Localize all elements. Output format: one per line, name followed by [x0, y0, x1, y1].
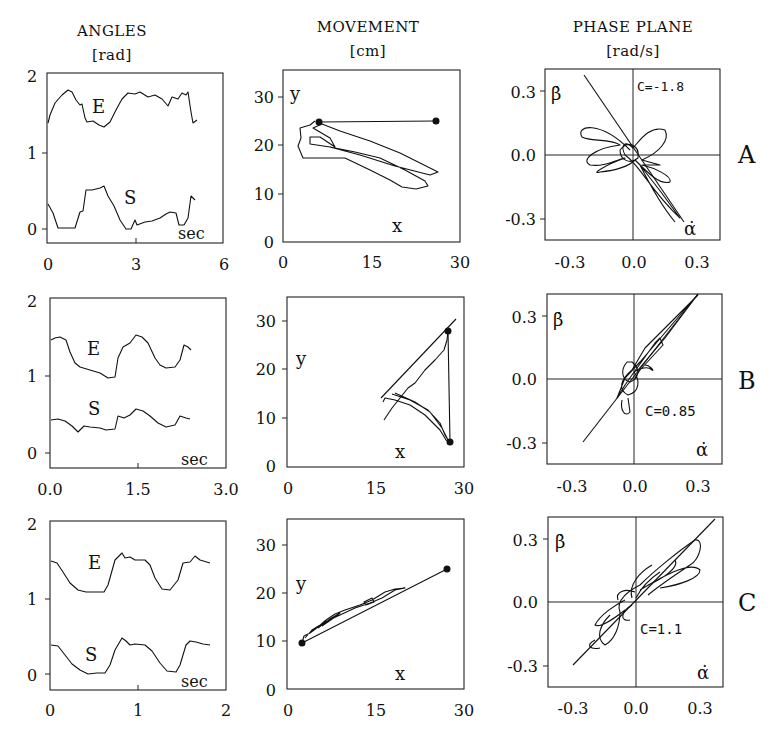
s-label: S	[124, 187, 136, 208]
movement-unit: [cm]	[350, 42, 386, 60]
ytick: 20	[256, 584, 276, 603]
xtick: -0.3	[558, 699, 589, 718]
x-unit: sec	[178, 224, 205, 243]
xtick: 0.0	[623, 699, 648, 718]
figure: ANGLES [rad] MOVEMENT [cm] PHASE PLANE […	[0, 0, 777, 736]
row-a: 2 1 0 0 3 6 E S sec 30 20 10 0 0 15 30	[27, 67, 756, 274]
xtick: 0.3	[687, 699, 712, 718]
e-trace	[48, 90, 197, 127]
ytick: 0.3	[512, 308, 537, 327]
beta-dot-label: β̇	[553, 309, 563, 330]
movement-panel-a: 30 20 10 0 0 15 30 y x	[254, 70, 471, 272]
ytick: 2	[27, 515, 37, 534]
row-label-b: B	[738, 367, 756, 395]
ytick: 20	[254, 136, 274, 155]
ytick: 1	[27, 144, 37, 163]
ytick: 0.0	[512, 370, 537, 389]
phase-panel-c: 0.3 0.0 -0.3 -0.3 0.0 0.3 β̇ C=1.1 α̇	[507, 517, 723, 718]
ytick: 1	[27, 367, 37, 386]
x-unit: sec	[181, 672, 208, 691]
ytick: 10	[256, 409, 276, 428]
xtick: 0	[283, 701, 293, 720]
e-trace	[51, 553, 210, 592]
row-c: 2 1 0 0 1 2 E S sec 30 20 10 0 0 15 30	[27, 515, 756, 720]
ytick: 0	[266, 457, 276, 476]
ytick: 30	[256, 312, 276, 331]
angles-panel-c: 2 1 0 0 1 2 E S sec	[27, 515, 231, 720]
row-b: 2 1 0 0.0 1.5 3.0 E S sec 30 20 10 0 0 1…	[27, 292, 756, 499]
phase-unit: [rad/s]	[606, 42, 660, 60]
x-label: x	[392, 215, 402, 236]
coef-label: C=1.1	[640, 621, 682, 637]
xtick: 15	[366, 479, 386, 498]
s-trace	[51, 409, 190, 432]
xtick: 0.3	[685, 477, 710, 496]
s-label: S	[85, 644, 97, 665]
s-trace	[48, 186, 195, 229]
xtick: -0.3	[557, 477, 588, 496]
ytick: 30	[256, 536, 276, 555]
xtick: 6	[219, 255, 229, 274]
e-trace	[51, 335, 191, 378]
ytick: 30	[254, 88, 274, 107]
xtick: 1.5	[125, 480, 150, 499]
xtick: 0	[283, 479, 293, 498]
alpha-dot-label: α̇	[684, 218, 696, 239]
phase-header: PHASE PLANE	[573, 18, 693, 36]
ytick: 2	[27, 292, 37, 311]
e-label: E	[87, 338, 100, 359]
movement-trace	[298, 121, 438, 189]
ytick: 2	[27, 67, 37, 86]
ytick: 10	[256, 632, 276, 651]
row-label-a: A	[737, 141, 756, 169]
xtick: -0.3	[555, 253, 586, 272]
xtick: 0	[43, 255, 53, 274]
movement-panel-c: 30 20 10 0 0 15 30 y x	[256, 519, 475, 720]
movement-trace	[383, 331, 450, 442]
movement-panel-b: 30 20 10 0 0 15 30 y x	[256, 297, 475, 498]
phase-trace	[617, 294, 698, 414]
ytick: 0.3	[511, 83, 536, 102]
angles-header: ANGLES	[76, 22, 147, 40]
e-label: E	[92, 96, 105, 117]
xtick: 0.0	[621, 253, 646, 272]
phase-panel-b: 0.3 0.0 -0.3 -0.3 0.0 0.3 β̇ C=0.85 α̇	[506, 294, 722, 496]
ytick: 1	[27, 590, 37, 609]
row-label-c: C	[738, 589, 756, 617]
ytick: 0	[264, 233, 274, 252]
phase-trace	[581, 128, 680, 222]
phase-panel-a: 0.3 0.0 -0.3 -0.3 0.0 0.3 β̇ C=-1.8 α̇	[505, 69, 720, 272]
s-label: S	[88, 398, 100, 419]
y-label: y	[289, 83, 301, 104]
xtick: 15	[366, 701, 386, 720]
x-unit: sec	[181, 450, 208, 469]
xtick: 0.0	[37, 480, 62, 499]
ytick: 0	[27, 220, 37, 239]
x-label: x	[395, 663, 405, 684]
s-trace	[51, 638, 210, 674]
angles-panel-a: 2 1 0 0 3 6 E S sec	[27, 67, 229, 274]
regression-line	[584, 75, 684, 222]
ytick: -0.3	[507, 657, 538, 676]
ytick: 10	[254, 185, 274, 204]
ytick: 0	[27, 444, 37, 463]
xtick: 30	[454, 479, 474, 498]
xtick: 0.3	[684, 253, 709, 272]
ytick: 20	[256, 360, 276, 379]
beta-dot-label: β̇	[555, 531, 565, 552]
xtick: 0	[278, 253, 288, 272]
y-label: y	[295, 348, 307, 369]
xtick: 30	[450, 253, 470, 272]
angles-panel-b: 2 1 0 0.0 1.5 3.0 E S sec	[27, 292, 239, 499]
ytick: -0.3	[505, 210, 536, 229]
ytick: 0.0	[511, 146, 536, 165]
xtick: 0	[45, 701, 55, 720]
ytick: 0	[266, 681, 276, 700]
xtick: 30	[454, 701, 474, 720]
end-point	[433, 118, 440, 125]
alpha-dot-label: α̇	[696, 439, 708, 460]
beta-dot-label: β̇	[551, 83, 561, 104]
x-label: x	[395, 441, 405, 462]
ytick: -0.3	[506, 434, 537, 453]
xtick: 3.0	[213, 480, 238, 499]
